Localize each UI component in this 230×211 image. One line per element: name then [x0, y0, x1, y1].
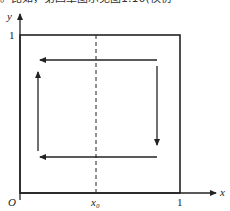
- y-tick-1: 1: [9, 29, 15, 41]
- phase-diagram: y 1 x O x₀ 1: [0, 0, 230, 211]
- origin-label: O: [8, 196, 16, 208]
- x0-tick-label: x₀: [90, 196, 100, 208]
- x-tick-1: 1: [177, 196, 183, 208]
- x-axis-label: x: [219, 186, 225, 198]
- y-axis-label: y: [6, 10, 12, 22]
- unit-square: [20, 35, 180, 193]
